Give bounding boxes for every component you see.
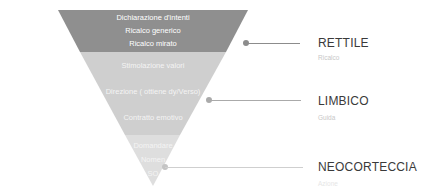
funnel-item-nomen: Nomen: [58, 155, 248, 165]
funnel-item-direzione: Direzione ( ottiene dy/Verso): [58, 87, 248, 97]
funnel-item-so: SO: [58, 169, 248, 179]
funnel-item-dichiarazione: Dichiarazione d'intenti: [58, 13, 248, 23]
layer-subtitle-limbico: Guida: [318, 114, 335, 121]
layer-title-limbico: LIMBICO: [318, 94, 369, 108]
layer-subtitle-rettile: Ricalco: [318, 54, 339, 61]
layer-title-neocorteccia: NEOCORTECCIA: [318, 160, 417, 174]
connector-line-limbico: [209, 100, 301, 101]
funnel-item-stimolazione-valori: Stimolazione valori: [58, 61, 248, 71]
funnel-item-domandare: Domandare: [58, 141, 248, 151]
funnel-item-ricalco-generico: Ricalco generico: [58, 26, 248, 36]
connector-line-rettile: [246, 43, 300, 44]
layer-title-rettile: RETTILE: [318, 36, 369, 50]
layer-subtitle-neocorteccia: Azione: [318, 180, 338, 187]
funnel-item-contratto-emotivo: Contratto emotivo: [58, 113, 248, 123]
connector-line-neocorteccia: [165, 167, 303, 168]
funnel-item-ricalco-mirato: Ricalco mirato: [58, 39, 248, 49]
